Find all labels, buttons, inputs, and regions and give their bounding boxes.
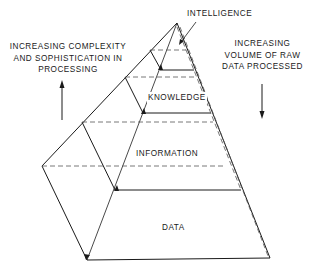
right-annotation-line-3: DATA PROCESSED (220, 61, 305, 73)
left-annotation-line-3: PROCESSING (8, 64, 128, 76)
connector-1 (150, 50, 160, 68)
arrow-up-icon (60, 80, 65, 88)
right-annotation: INCREASING VOLUME OF RAW DATA PROCESSED (220, 38, 305, 73)
label-intelligence: INTELLIGENCE (187, 8, 252, 20)
arrow-down-icon (260, 111, 265, 119)
left-annotation-line-2: AND SOPHISTICATION IN (8, 53, 128, 65)
connector-2 (125, 77, 143, 113)
intelligence-pointer (181, 22, 196, 42)
label-information: INFORMATION (136, 148, 198, 160)
pyramid-left-corner-edge (42, 166, 87, 260)
left-annotation-line-1: INCREASING COMPLEXITY (8, 41, 128, 53)
label-knowledge: KNOWLEDGE (147, 92, 207, 104)
pyramid-base (87, 258, 270, 260)
right-annotation-line-2: VOLUME OF RAW (220, 50, 305, 62)
right-annotation-line-1: INCREASING (220, 38, 305, 50)
label-data: DATA (162, 222, 185, 234)
connector-3 (82, 122, 115, 190)
left-annotation: INCREASING COMPLEXITY AND SOPHISTICATION… (8, 41, 128, 76)
